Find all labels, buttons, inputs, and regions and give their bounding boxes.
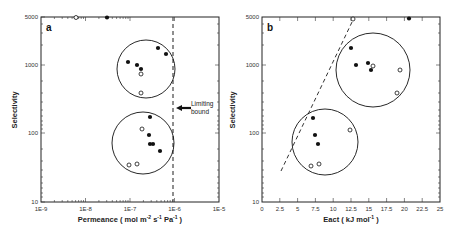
panel-b-xtick: 15 — [365, 206, 372, 212]
panel-a-letter: a — [46, 22, 52, 33]
panel-b-letter: b — [267, 22, 273, 33]
panel-b-xtick: 25 — [437, 206, 444, 212]
panel-b-xtick: 12.5 — [345, 206, 357, 212]
panel-b-xtick: 2.5 — [276, 206, 285, 212]
panel-b-xtick: 0 — [260, 206, 264, 212]
panel-a-xtick: 1E-9 — [35, 206, 48, 212]
panel-a-xtick: 1E-6 — [168, 206, 181, 212]
panel-b-xlabel: Eact ( kJ mol-1 ) — [323, 214, 379, 224]
panel-a-xlabel: Permeance ( mol m-2 s-1 Pa-1 ) — [78, 214, 183, 224]
limiting-bound-label-2: bound — [191, 108, 209, 115]
panel-a-open-points — [74, 16, 144, 168]
panel-b-ylabel: Selectivity — [228, 91, 237, 129]
panel-b-ytick-5000: 5000 — [246, 14, 260, 20]
panel-b-open-points — [309, 17, 402, 168]
panel-a-ytick-1000: 1000 — [25, 62, 39, 68]
panel-a-ytick-5000: 5000 — [25, 14, 39, 20]
panel-a-xtick: 1E-5 — [213, 206, 226, 212]
panel-b-xtick: 7.5 — [311, 206, 320, 212]
panel-a-xtick: 1E-7 — [124, 206, 137, 212]
panel-b-xtick: 20 — [401, 206, 408, 212]
panel-b-xtick: 22.5 — [416, 206, 428, 212]
panel-b-x-ticks — [280, 17, 422, 202]
panel-a-x-ticks — [54, 17, 174, 202]
limiting-bound-label-1: Limiting — [191, 100, 214, 108]
panel-a-upper-cluster-circle — [117, 40, 175, 98]
panel-b-trend-line — [281, 20, 353, 171]
panel-b-ytick-1000: 1000 — [246, 62, 260, 68]
panel-b-ytick-100: 100 — [249, 130, 260, 136]
panel-a-xtick: 1E-8 — [79, 206, 92, 212]
figure: 5000 1000 100 10 1E-9 1E-8 1E-7 1E-6 1E-… — [0, 0, 456, 237]
panel-b-xtick: 17.5 — [381, 206, 393, 212]
limiting-bound-arrow-icon — [176, 105, 191, 111]
panel-a-ylabel: Selectivity — [10, 91, 19, 129]
panel-a-ytick-100: 100 — [28, 130, 39, 136]
panel-a-filled-points — [105, 15, 168, 153]
panel-b-xtick: 10 — [330, 206, 337, 212]
panel-b-xtick: 5 — [296, 206, 300, 212]
panel-a: 5000 1000 100 10 1E-9 1E-8 1E-7 1E-6 1E-… — [10, 14, 226, 224]
panel-a-ytick-10: 10 — [31, 199, 38, 205]
panel-b: 5000 1000 100 10 0 2.5 5 7.5 10 12.5 15 … — [228, 14, 444, 224]
panel-a-lower-cluster-circle — [112, 112, 174, 174]
panel-b-lower-cluster-circle — [292, 109, 358, 175]
panel-b-ytick-10: 10 — [252, 199, 259, 205]
panel-b-filled-points — [311, 16, 411, 146]
panel-b-frame — [262, 17, 440, 202]
